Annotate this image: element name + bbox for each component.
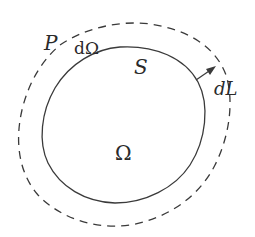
dl-arrow <box>196 66 216 80</box>
label-d-omega: dΩ <box>74 38 99 58</box>
inner-solid-boundary <box>42 47 205 203</box>
label-s: S <box>134 55 148 79</box>
label-omega: Ω <box>115 141 132 165</box>
label-dl: dL <box>214 78 237 99</box>
region-diagram: P dΩ S dL Ω <box>0 0 255 237</box>
label-p: P <box>43 31 58 55</box>
